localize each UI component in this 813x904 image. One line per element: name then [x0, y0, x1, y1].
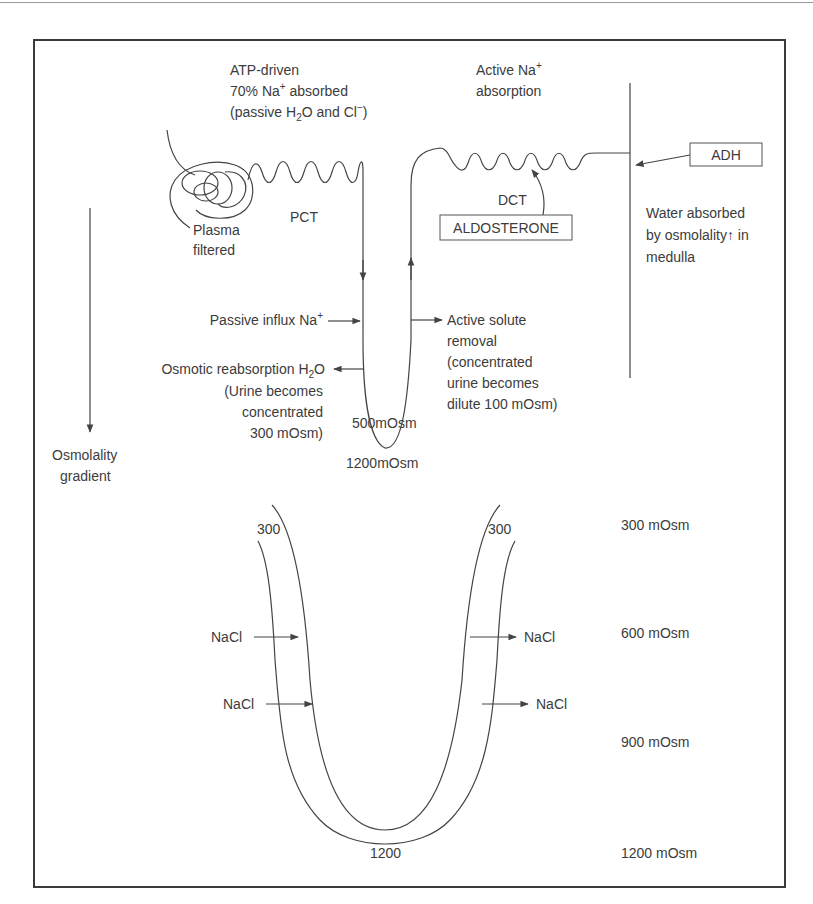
ascending-note-line1: Active solute	[447, 312, 527, 328]
loop-inner-label: 500mOsm	[352, 415, 417, 431]
nephron-diagram: ATP-driven 70% Na+ absorbed (passive H2O…	[0, 0, 813, 904]
nacl-out-1-label: NaCl	[524, 629, 555, 645]
pct-note-line2: 70% Na+ absorbed	[230, 81, 348, 99]
ascending-note-line2: removal	[447, 333, 497, 349]
glomerulus-label-line1: Plasma	[193, 222, 240, 238]
scale-1200: 1200 mOsm	[621, 845, 697, 861]
urine-concentrated-line1: (Urine becomes	[224, 383, 323, 399]
adh-label: ADH	[711, 147, 741, 163]
aldosterone-arrow	[532, 170, 544, 215]
dct-tubule	[411, 148, 630, 185]
ascending-note-line4: urine becomes	[447, 375, 539, 391]
loop-bottom-value: 1200	[370, 845, 401, 861]
pct-note: ATP-driven 70% Na+ absorbed (passive H2O…	[230, 62, 367, 123]
collecting-duct-note-line1: Water absorbed	[646, 205, 745, 221]
scale-300: 300 mOsm	[621, 517, 689, 533]
nacl-in-1-label: NaCl	[211, 629, 242, 645]
pct-note-line1: ATP-driven	[230, 62, 299, 78]
pct-label: PCT	[290, 209, 318, 225]
adh-arrow	[636, 155, 690, 165]
dct-note: Active Na+ absorption	[476, 60, 542, 99]
glomerulus-icon	[167, 130, 253, 228]
urine-concentrated-line2: concentrated	[242, 404, 323, 420]
loop-left-top-value: 300	[257, 521, 281, 537]
dct-note-line2: absorption	[476, 83, 541, 99]
loop-bottom-label: 1200mOsm	[346, 455, 418, 471]
dct-label: DCT	[498, 192, 527, 208]
gradient-label-line1: Osmolality	[52, 447, 117, 463]
scale-600: 600 mOsm	[621, 625, 689, 641]
collecting-duct-note-line3: medulla	[646, 249, 695, 265]
nacl-out-2-label: NaCl	[536, 696, 567, 712]
gradient-label-line2: gradient	[60, 468, 111, 484]
passive-influx-label: Passive influx Na+	[210, 310, 323, 328]
scale-900: 900 mOsm	[621, 734, 689, 750]
loop-of-henle	[363, 185, 411, 448]
urine-concentrated-line3: 300 mOsm)	[250, 425, 323, 441]
aldosterone-label: ALDOSTERONE	[453, 220, 559, 236]
loop-inner-wall	[272, 505, 500, 830]
pct-note-line3: (passive H2O and Cl−)	[230, 102, 367, 123]
loop-right-top-value: 300	[488, 521, 512, 537]
dct-note-line1: Active Na+	[476, 60, 542, 78]
osmotic-reabsorption-label: Osmotic reabsorption H2O	[161, 361, 325, 380]
ascending-note-line5: dilute 100 mOsm)	[447, 396, 557, 412]
glomerulus-label-line2: filtered	[193, 242, 235, 258]
collecting-duct-note-line2: by osmolality↑ in	[646, 227, 749, 243]
loop-outer-wall	[258, 541, 515, 844]
nacl-in-2-label: NaCl	[223, 696, 254, 712]
ascending-note-line3: (concentrated	[447, 354, 533, 370]
